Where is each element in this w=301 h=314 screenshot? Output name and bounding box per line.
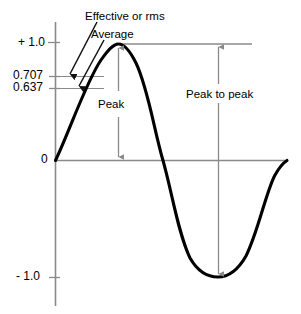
axis-label-average-value: 0.637: [13, 81, 43, 93]
annotation-peak-to-peak: Peak to peak: [186, 89, 253, 101]
annotation-average: Average: [91, 29, 134, 41]
axis-label-plus-one: + 1.0: [18, 36, 45, 48]
axis-label-zero: 0: [41, 153, 48, 165]
annotation-peak: Peak: [98, 99, 124, 111]
annotation-effective-or-rms: Effective or rms: [85, 11, 165, 23]
sine-wave-figure: + 1.0 0.707 0.637 0 - 1.0 Effective or r…: [0, 0, 301, 314]
axis-label-minus-one: - 1.0: [16, 270, 40, 282]
